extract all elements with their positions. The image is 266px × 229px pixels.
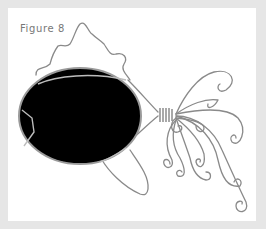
tail-wrap [160,108,172,122]
wire-fish-illustration [0,0,266,229]
